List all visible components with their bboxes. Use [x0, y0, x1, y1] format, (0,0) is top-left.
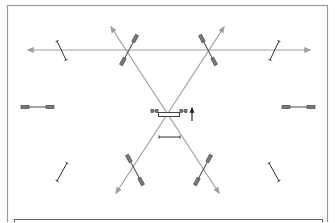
fixture-bottom-left-diag — [126, 154, 145, 186]
fixture-right-horizontal — [282, 105, 315, 108]
fixture-center-left — [151, 109, 158, 112]
fixture-left-horizontal — [21, 105, 54, 108]
i-markers — [56, 40, 281, 181]
diagonal-arrow-nw-se — [111, 27, 219, 193]
marker-center-below — [159, 135, 180, 138]
marker-bottom-left — [56, 162, 69, 182]
diagonal-arrow-ne-sw — [116, 27, 224, 193]
center-element — [159, 113, 180, 117]
marker-bottom-right — [268, 162, 281, 182]
fixture-center-right — [180, 109, 187, 112]
legend-box — [15, 220, 323, 223]
direction-arrows — [28, 27, 310, 193]
diagram-canvas — [0, 0, 335, 222]
